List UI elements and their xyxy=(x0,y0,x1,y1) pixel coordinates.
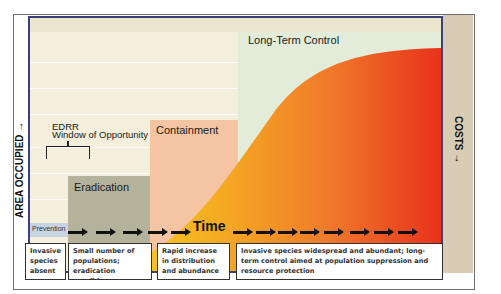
time-label: Time xyxy=(193,218,225,234)
area-occupied-axis-label: AREA OCCUPIED → xyxy=(14,78,25,218)
edrr-label: EDRR Window of Opportunity xyxy=(52,123,148,139)
time-arrow-icon xyxy=(324,229,344,235)
long-term-control-label: Long-Term Control xyxy=(248,34,339,46)
time-arrow-icon xyxy=(123,229,143,235)
edrr-bracket xyxy=(46,146,90,159)
time-arrow-icon xyxy=(374,229,394,235)
time-arrow-icon xyxy=(278,229,298,235)
plot-area: Long-Term Control Containment Eradicatio… xyxy=(28,16,443,273)
containment-label: Containment xyxy=(156,124,218,136)
time-arrow-icon xyxy=(350,229,370,235)
costs-axis-label: COSTS → xyxy=(453,116,464,163)
time-arrow-icon xyxy=(233,229,253,235)
edrr-subtitle: Window of Opportunity xyxy=(52,131,148,139)
time-arrow-icon xyxy=(398,229,418,235)
time-arrow-icon xyxy=(148,229,168,235)
stage-box-eradication-possible: Small number of populations; eradication… xyxy=(68,243,152,280)
time-arrow-icon xyxy=(96,229,116,235)
time-arrow-icon xyxy=(68,229,88,235)
time-arrow-icon xyxy=(256,229,276,235)
eradication-label: Eradication xyxy=(74,181,129,193)
stage-box-widespread: Invasive species widespread and abundant… xyxy=(236,243,443,280)
time-arrow-icon xyxy=(300,229,320,235)
time-arrow-icon xyxy=(171,229,191,235)
stage-box-rapid-increase: Rapid increase in distribution and abund… xyxy=(157,243,230,280)
prevention-label: Prevention xyxy=(32,225,65,232)
stage-box-absent: Invasive species absent xyxy=(25,243,66,280)
